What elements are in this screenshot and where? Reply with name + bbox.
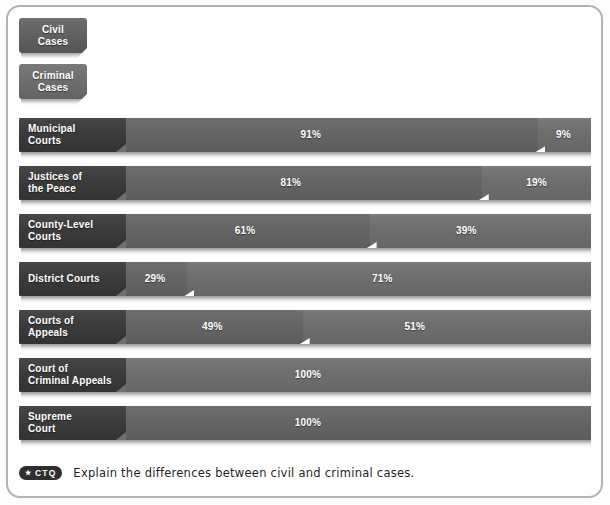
value-label-civil: 81% (280, 177, 301, 188)
row-label-line1: Supreme (28, 411, 126, 423)
row-label-line2: Court (28, 423, 126, 435)
legend-label-line2: Cases (38, 36, 68, 48)
value-label-civil: 91% (300, 129, 321, 140)
legend-item-criminal: Criminal Cases (19, 64, 87, 99)
row-label-7: SupremeCourt (19, 406, 126, 440)
bar-wrap: SupremeCourt100% (19, 406, 591, 440)
value-label-civil: 49% (202, 321, 223, 332)
bar-drop-shadow (21, 248, 591, 255)
bar-wrap: MunicipalCourts91%9% (19, 118, 591, 152)
legend-label-line2: Cases (38, 82, 68, 94)
row-label-line1: Courts of (28, 315, 126, 327)
chart-row: SupremeCourt100% (19, 406, 591, 454)
legend-label-line1: Civil (42, 24, 64, 36)
value-label-criminal: 71% (372, 273, 393, 284)
row-label-3: County-LevelCourts (19, 214, 126, 248)
row-label-line2: Courts (28, 135, 126, 147)
legend-item-civil: Civil Cases (19, 18, 87, 53)
bar-drop-shadow (21, 200, 591, 207)
value-label-civil: 61% (235, 225, 256, 236)
value-label-criminal: 100% (295, 369, 321, 380)
chart-row: MunicipalCourts91%9% (19, 118, 591, 166)
ctq-badge-label: CTQ (35, 468, 56, 478)
bar-drop-shadow (21, 152, 591, 159)
legend-swatch-civil: Civil Cases (19, 18, 87, 53)
bar-wrap: County-LevelCourts61%39% (19, 214, 591, 248)
ctq-badge: ★ CTQ (19, 466, 62, 480)
chart-rows: MunicipalCourts91%9%Justices ofthe Peace… (19, 118, 591, 454)
chart-row: Court ofCriminal Appeals100% (19, 358, 591, 406)
chart-row: Justices ofthe Peace81%19% (19, 166, 591, 214)
row-label-line2: Criminal Appeals (28, 375, 126, 387)
bar-drop-shadow (21, 392, 591, 399)
value-label-civil: 100% (295, 417, 321, 428)
chart-row: District Courts29%71% (19, 262, 591, 310)
bar-wrap: Court ofCriminal Appeals100% (19, 358, 591, 392)
row-label-line1: County-Level (28, 219, 126, 231)
footer: ★ CTQ Explain the differences between ci… (19, 466, 579, 480)
chart-page: Civil Cases Criminal Cases MunicipalCour… (0, 0, 610, 505)
row-label-line1: Justices of (28, 171, 126, 183)
bar-drop-shadow (21, 296, 591, 303)
bar-drop-shadow (21, 344, 591, 351)
row-label-line1: Municipal (28, 123, 126, 135)
row-label-line2: Appeals (28, 327, 126, 339)
value-label-criminal: 51% (405, 321, 426, 332)
row-label-line2: Courts (28, 231, 126, 243)
ctq-question-text: Explain the differences between civil an… (73, 466, 414, 480)
row-label-2: Justices ofthe Peace (19, 166, 126, 200)
chart-row: Courts ofAppeals49%51% (19, 310, 591, 358)
bar-drop-shadow (21, 440, 591, 447)
row-label-4: District Courts (19, 262, 126, 296)
bar-wrap: District Courts29%71% (19, 262, 591, 296)
legend-shadow (21, 99, 87, 105)
star-icon: ★ (25, 469, 32, 476)
bar-wrap: Justices ofthe Peace81%19% (19, 166, 591, 200)
chart-legend: Civil Cases Criminal Cases (19, 18, 279, 110)
value-label-civil: 29% (145, 273, 166, 284)
row-label-line1: District Courts (28, 273, 126, 285)
row-label-5: Courts ofAppeals (19, 310, 126, 344)
row-label-line2: the Peace (28, 183, 126, 195)
row-label-1: MunicipalCourts (19, 118, 126, 152)
row-label-line1: Court of (28, 363, 126, 375)
value-label-criminal: 19% (526, 177, 547, 188)
legend-shadow (21, 53, 87, 59)
value-label-criminal: 39% (456, 225, 477, 236)
chart-row: County-LevelCourts61%39% (19, 214, 591, 262)
bar-wrap: Courts ofAppeals49%51% (19, 310, 591, 344)
legend-swatch-criminal: Criminal Cases (19, 64, 87, 99)
legend-label-line1: Criminal (32, 70, 74, 82)
value-label-criminal: 9% (556, 129, 571, 140)
row-label-6: Court ofCriminal Appeals (19, 358, 126, 392)
